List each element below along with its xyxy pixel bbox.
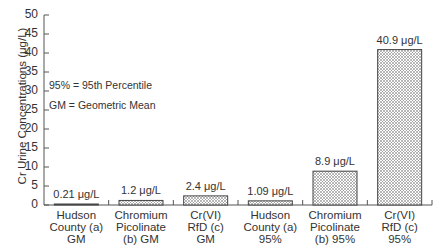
y-tick-label: 20 [16,121,38,135]
legend-percentile: 95% = 95th Percentile [49,79,152,91]
category-label: Chromium Picolinate (b) GM [106,209,176,245]
y-tick-label: 5 [16,178,38,192]
legend-geometric-mean: GM = Geometric Mean [49,99,156,111]
category-label: Cr(VI) RfD (c) 95% [365,209,434,245]
bar-value-label: 40.9 μg/L [360,34,434,46]
bar [313,171,357,205]
y-tick-label: 40 [16,45,38,59]
y-tick-label: 50 [16,7,38,21]
y-tick-label: 0 [16,197,38,211]
y-tick-label: 10 [16,159,38,173]
bar [54,204,98,205]
category-label: Hudson County (a) 95% [235,209,305,245]
bar-chart: Cr Urine Concentrations (μg/L) 051015202… [0,0,434,251]
y-tick-label: 15 [16,140,38,154]
bar [248,201,292,205]
y-tick-label: 35 [16,64,38,78]
category-label: Chromium Picolinate (b) 95% [300,209,370,245]
bar [119,200,163,205]
bar [184,196,228,205]
y-tick-label: 25 [16,102,38,116]
y-tick-label: 45 [16,26,38,40]
y-tick-label: 30 [16,83,38,97]
bar-value-label: 8.9 μg/L [295,155,375,167]
bar [378,50,422,205]
bar-value-label: 1.09 μg/L [230,185,310,197]
category-label: Hudson County (a) GM [41,209,111,245]
category-label: Cr(VI) RfD (c) GM [171,209,241,245]
